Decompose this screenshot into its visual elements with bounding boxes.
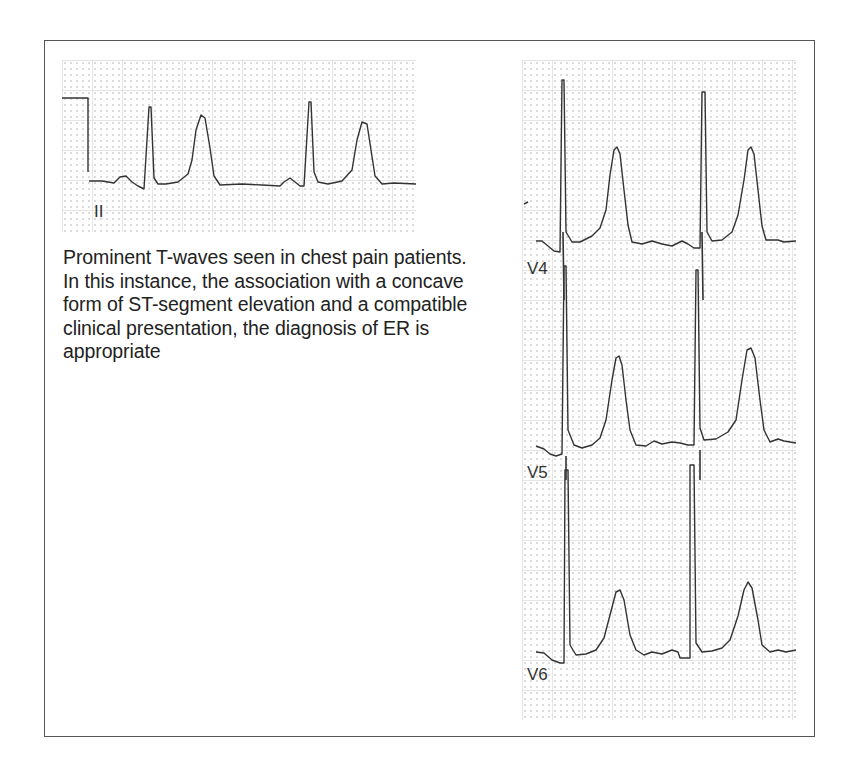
lead-label-ii: II [94, 202, 103, 221]
ecg-strip-lead-ii: II [62, 60, 416, 232]
figure-caption: Prominent T-waves seen in chest pain pat… [63, 246, 483, 364]
lead-label-v6: V6 [527, 665, 548, 684]
ecg-lead-ii-svg: II [62, 60, 416, 232]
lead-label-v4: V4 [527, 259, 548, 278]
ecg-strip-precordial: V4 V5 V6 [522, 60, 796, 720]
lead-label-v5: V5 [527, 463, 548, 482]
ecg-precordial-svg: V4 V5 V6 [522, 60, 796, 720]
